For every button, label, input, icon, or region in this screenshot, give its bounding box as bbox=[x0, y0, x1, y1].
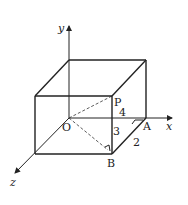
dimension-2-label: 2 bbox=[133, 136, 140, 149]
dashed-OP bbox=[69, 96, 112, 118]
cuboid-diagram: y x z O P A B 4 3 2 bbox=[0, 0, 188, 205]
dashed-OB bbox=[69, 118, 108, 150]
z-axis bbox=[15, 118, 69, 173]
dimension-3-label: 3 bbox=[113, 125, 120, 138]
x-axis-label: x bbox=[166, 120, 173, 133]
cuboid bbox=[35, 60, 146, 154]
dimension-4-label: 4 bbox=[119, 106, 126, 119]
origin-label: O bbox=[62, 121, 71, 134]
z-axis-label: z bbox=[9, 176, 16, 189]
y-axis-label: y bbox=[57, 22, 65, 35]
point-B-label: B bbox=[107, 157, 115, 170]
point-A-label: A bbox=[142, 120, 152, 133]
